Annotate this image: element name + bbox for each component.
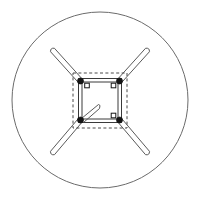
node-top-right [116, 78, 122, 84]
node-top-left [77, 78, 83, 84]
node-open-bottom-right [111, 113, 116, 118]
node-open-top-left [85, 83, 90, 88]
node-bottom-right [116, 117, 122, 123]
canvas-background [0, 0, 201, 208]
node-open-top-right [111, 83, 116, 88]
drawing-canvas [0, 0, 201, 208]
technical-drawing-svg [0, 0, 201, 208]
node-bottom-left [77, 117, 83, 123]
